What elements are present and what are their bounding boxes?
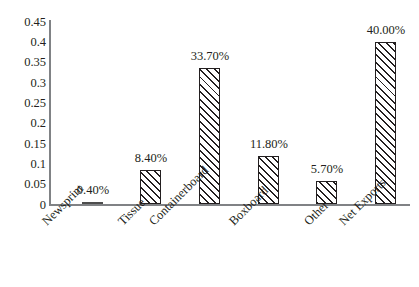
bar-value-label-net-exports: 40.00% — [351, 24, 419, 37]
y-axis-tick-label: 0.4 — [4, 36, 46, 49]
bar-tissue — [140, 170, 161, 204]
y-axis-tick-label: 0.3 — [4, 77, 46, 90]
y-axis-tick-label: 0.35 — [4, 56, 46, 69]
y-axis-tick-label: 0.25 — [4, 97, 46, 110]
y-axis-tick-label: 0.15 — [4, 138, 46, 151]
bar-value-label-boxboard: 11.80% — [234, 138, 304, 151]
y-axis-tick-label: 0.05 — [4, 178, 46, 191]
bar-newsprint — [82, 202, 103, 204]
bar-value-label-tissue: 8.40% — [120, 152, 182, 165]
bar-chart: 0.45 0.4 0.35 0.3 0.25 0.2 0.15 0.1 0.05… — [0, 0, 419, 287]
y-axis-tick-label: 0.45 — [4, 16, 46, 29]
y-axis-tick-label: 0.2 — [4, 117, 46, 130]
bar-value-label-other: 5.70% — [296, 163, 358, 176]
bar-value-label-containerboard: 33.70% — [175, 50, 245, 63]
y-axis-tick-label: 0 — [4, 199, 46, 212]
y-axis-line — [49, 20, 51, 205]
y-axis-tick-label: 0.1 — [4, 158, 46, 171]
x-axis-category-label-tissue: Tissue — [116, 196, 148, 228]
bar-containerboard — [199, 68, 220, 204]
